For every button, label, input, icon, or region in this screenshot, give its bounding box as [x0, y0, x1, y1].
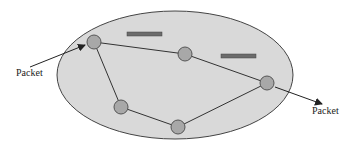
network-diagram [0, 0, 357, 146]
packet-in-label: Packet [16, 67, 43, 78]
node-4 [171, 120, 185, 134]
packet-bar-1 [127, 32, 162, 36]
packet-bar-2 [221, 54, 256, 58]
node-3 [260, 76, 274, 90]
packet-out-label: Packet [312, 105, 339, 116]
node-2 [178, 47, 192, 61]
node-1 [87, 35, 101, 49]
node-5 [114, 100, 128, 114]
network-cloud [57, 11, 293, 139]
